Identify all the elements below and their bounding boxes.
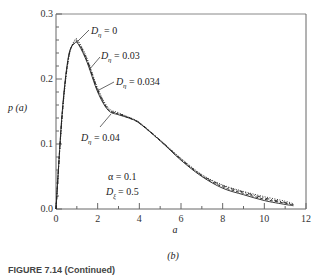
x-tick-label: 0	[54, 213, 59, 224]
svg-text:η: η	[98, 31, 102, 39]
annotation-d-eta-0.03: D η = 0.03	[100, 50, 140, 64]
panel-label: (b)	[167, 250, 179, 262]
svg-text:= 0.04: = 0.04	[94, 132, 120, 143]
y-tick-label: 0.1	[41, 138, 54, 149]
x-tick-label: 6	[179, 213, 184, 224]
x-tick-label: 2	[95, 213, 100, 224]
svg-text:η: η	[108, 56, 112, 64]
svg-text:η: η	[123, 82, 127, 90]
curve-d-0.04	[56, 39, 294, 209]
x-axis-label: a	[173, 224, 178, 235]
y-tick-label: 0.0	[41, 203, 54, 214]
axis-tick-labels: 0246810120.00.10.20.3	[41, 8, 312, 224]
y-tick-label: 0.3	[41, 8, 54, 19]
x-tick-label: 12	[301, 213, 311, 224]
annotation-d-eta-0.034: D η = 0.034	[115, 76, 160, 90]
svg-text:ξ: ξ	[113, 192, 116, 200]
svg-text:= 0.5: = 0.5	[118, 186, 139, 197]
svg-text:= 0.034: = 0.034	[129, 76, 160, 87]
figure-caption: FIGURE 7.14 (Continued)	[8, 265, 115, 275]
data-curves	[56, 39, 294, 209]
x-tick-label: 10	[259, 213, 269, 224]
svg-text:α = 0.1: α = 0.1	[108, 171, 136, 182]
annotation-d-eta-0.04: D η = 0.04	[80, 132, 120, 146]
y-tick-label: 0.2	[41, 73, 54, 84]
y-axis-label: p (a)	[7, 102, 28, 114]
svg-text:η: η	[88, 138, 92, 146]
annotation-d-eta-0: D η = 0	[90, 25, 117, 39]
annotation-leaders	[78, 30, 114, 127]
curve-d-0.034	[56, 40, 294, 209]
svg-text:= 0.03: = 0.03	[114, 50, 140, 61]
svg-text:= 0: = 0	[104, 25, 117, 36]
annotation-parameters: α = 0.1 D ξ = 0.5	[105, 171, 139, 200]
plot-frame	[56, 14, 306, 209]
x-tick-label: 4	[137, 213, 142, 224]
axis-ticks	[56, 14, 306, 209]
x-tick-label: 8	[220, 213, 225, 224]
